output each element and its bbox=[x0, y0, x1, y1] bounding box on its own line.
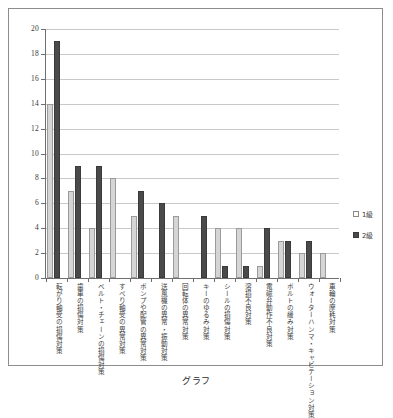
plot-area: 02468101214161820 bbox=[45, 29, 339, 279]
x-axis-tick bbox=[298, 278, 299, 282]
x-axis-tick bbox=[193, 278, 194, 282]
chart-frame: 02468101214161820 転がり軸受の損傷対策歯車の損傷対策ベルト・チ… bbox=[8, 8, 383, 366]
x-axis-label-3: すべり軸受の異常対策 bbox=[113, 283, 124, 354]
bar-group bbox=[130, 29, 151, 278]
legend-item-2級: 2級 bbox=[353, 230, 393, 240]
legend-item-1級: 1級 bbox=[353, 209, 393, 219]
bar-group bbox=[298, 29, 319, 278]
legend-swatch-icon bbox=[353, 232, 359, 238]
bar-1級-すべり軸受の異常対策 bbox=[110, 178, 116, 278]
bar-group bbox=[172, 29, 193, 278]
y-axis-tick-label: 12 bbox=[31, 125, 39, 133]
legend-label: 1級 bbox=[362, 209, 373, 219]
x-axis-tick bbox=[88, 278, 89, 282]
bar-1級-ポンプや配管の異常対策 bbox=[131, 216, 137, 278]
y-axis-tick-label: 8 bbox=[35, 175, 39, 183]
bar-2級-溶損不良対策 bbox=[243, 266, 249, 278]
bar-1級-回転体の異常対策 bbox=[173, 216, 179, 278]
y-axis-tick-label: 20 bbox=[31, 25, 39, 33]
x-axis-labels: 転がり軸受の損傷対策歯車の損傷対策ベルト・チェーンの損傷対策すべり軸受の異常対策… bbox=[45, 283, 339, 375]
bar-2級-転がり軸受の損傷対策 bbox=[54, 41, 60, 278]
bar-1級-電磁弁動作不良対策 bbox=[257, 266, 263, 278]
x-axis-label-8: シールの損傷対策 bbox=[218, 283, 229, 340]
x-axis-tick bbox=[340, 278, 341, 282]
y-axis-tick-label: 6 bbox=[35, 200, 39, 208]
bar-group bbox=[88, 29, 109, 278]
x-axis-label-4: ポンプや配管の異常対策 bbox=[134, 283, 145, 361]
bar-1級-溶損不良対策 bbox=[236, 228, 242, 278]
bar-2級-歯車の損傷対策 bbox=[75, 166, 81, 278]
bar-group bbox=[193, 29, 214, 278]
bars-layer bbox=[46, 29, 339, 278]
bar-2級-ポンプや配管の異常対策 bbox=[138, 191, 144, 278]
x-axis-tick bbox=[319, 278, 320, 282]
x-axis-tick bbox=[172, 278, 173, 282]
bar-group bbox=[46, 29, 67, 278]
bar-1級-ウォーターハンマ・キャビテーション対策 bbox=[299, 253, 305, 278]
bar-2級-送風機の異常・振動対策 bbox=[159, 203, 165, 278]
bar-2級-ベルト・チェーンの損傷対策 bbox=[96, 166, 102, 278]
x-axis-tick bbox=[109, 278, 110, 282]
y-axis-tick-label: 18 bbox=[31, 50, 39, 58]
bar-2級-キーのゆるみ対策 bbox=[201, 216, 207, 278]
bar-1級-転がり軸受の損傷対策 bbox=[47, 104, 53, 278]
bar-group bbox=[109, 29, 130, 278]
bar-2級-ウォーターハンマ・キャビテーション対策 bbox=[306, 241, 312, 278]
bar-1級-シールの損傷対策 bbox=[215, 228, 221, 278]
bar-group bbox=[319, 29, 340, 278]
bar-group bbox=[214, 29, 235, 278]
x-axis-tick bbox=[67, 278, 68, 282]
x-axis-tick bbox=[256, 278, 257, 282]
x-axis-tick bbox=[151, 278, 152, 282]
bar-2級-電磁弁動作不良対策 bbox=[264, 228, 270, 278]
y-axis-tick-label: 0 bbox=[35, 274, 39, 282]
x-axis-tick bbox=[214, 278, 215, 282]
bar-group bbox=[256, 29, 277, 278]
x-axis-label-6: 回転体の異常対策 bbox=[176, 283, 187, 340]
y-axis-tick-label: 4 bbox=[35, 224, 39, 232]
x-axis-label-7: キーのゆるみ対策 bbox=[197, 283, 208, 340]
bar-group bbox=[67, 29, 88, 278]
x-axis-label-0: 転がり軸受の損傷対策 bbox=[50, 283, 61, 354]
x-axis-label-12: ウォーターハンマ・キャビテーション対策 bbox=[302, 283, 313, 418]
x-axis-tick bbox=[46, 278, 47, 282]
bar-2級-ボルトの緩み対策 bbox=[285, 241, 291, 278]
legend-swatch-icon bbox=[353, 211, 359, 217]
x-axis-label-11: ボルトの緩み対策 bbox=[281, 283, 292, 340]
x-axis-label-13: 車輪の摩耗対策 bbox=[323, 283, 334, 333]
y-axis-tick-label: 2 bbox=[35, 249, 39, 257]
bar-1級-ベルト・チェーンの損傷対策 bbox=[89, 228, 95, 278]
bar-group bbox=[151, 29, 172, 278]
y-axis-tick-label: 16 bbox=[31, 75, 39, 83]
x-axis-label-5: 送風機の異常・振動対策 bbox=[155, 283, 166, 361]
x-axis-tick bbox=[235, 278, 236, 282]
legend-label: 2級 bbox=[362, 230, 373, 240]
x-axis-tick bbox=[130, 278, 131, 282]
bar-1級-車輪の摩耗対策 bbox=[320, 253, 326, 278]
bar-1級-ボルトの緩み対策 bbox=[278, 241, 284, 278]
x-axis-label-2: ベルト・チェーンの損傷対策 bbox=[92, 283, 103, 375]
figure-caption: グラフ bbox=[0, 374, 393, 387]
bar-group bbox=[235, 29, 256, 278]
x-axis-tick bbox=[277, 278, 278, 282]
y-axis-tick-label: 10 bbox=[31, 150, 39, 158]
bar-2級-シールの損傷対策 bbox=[222, 266, 228, 278]
x-axis-label-10: 電磁弁動作不良対策 bbox=[260, 283, 271, 347]
legend: 1級2級 bbox=[353, 209, 393, 251]
y-axis-tick-label: 14 bbox=[31, 100, 39, 108]
bar-1級-歯車の損傷対策 bbox=[68, 191, 74, 278]
x-axis-label-1: 歯車の損傷対策 bbox=[71, 283, 82, 333]
x-axis-label-9: 溶損不良対策 bbox=[239, 283, 250, 326]
bar-group bbox=[277, 29, 298, 278]
